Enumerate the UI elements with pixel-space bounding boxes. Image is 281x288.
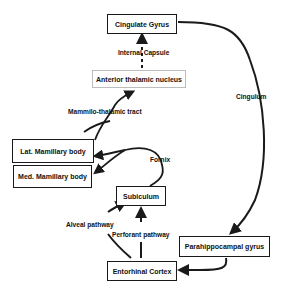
node-label: Parahippocampal gyrus [185, 243, 264, 250]
cingulum-label: Cingulum [236, 93, 266, 100]
lat-mamillary-node: Lat. Mamillary body [12, 139, 94, 163]
fornix-arrow [96, 148, 163, 186]
mammilo-thalamic-arrow [95, 92, 132, 140]
parahippocampal-entorhinal-arrow [181, 258, 226, 270]
node-label: Cingulate Gyrus [115, 21, 169, 28]
med-mamillary-node: Med. Mamillary body [13, 165, 92, 188]
entorhinal-node: Entorhinal Cortex [107, 261, 177, 281]
node-label: Lat. Mamillary body [20, 148, 85, 155]
cingulum-arrow [178, 22, 264, 232]
alveal-pathway-label: Alveal pathway [66, 221, 114, 228]
node-label: Anterior thalamic nucleus [96, 76, 182, 83]
anterior-thalamic-node: Anterior thalamic nucleus [92, 70, 186, 88]
cingulate-gyrus-node: Cingulate Gyrus [107, 14, 177, 34]
fornix-label: Fornix [150, 156, 170, 163]
node-label: Subiculum [123, 193, 159, 200]
node-label: Med. Mamillary body [18, 173, 87, 180]
subiculum-node: Subiculum [116, 186, 166, 206]
perforant-pathway-label: Perforant pathway [112, 231, 170, 238]
parahippocampal-node: Parahippocampal gyrus [179, 236, 270, 257]
internal-capsule-label: Internal Capsule [118, 49, 169, 56]
node-label: Entorhinal Cortex [113, 268, 172, 275]
mammilo-thalamic-label: Mammilo-thalamic tract [68, 108, 142, 115]
papez-circuit-diagram: Cingulate Gyrus Anterior thalamic nucleu… [0, 0, 281, 288]
